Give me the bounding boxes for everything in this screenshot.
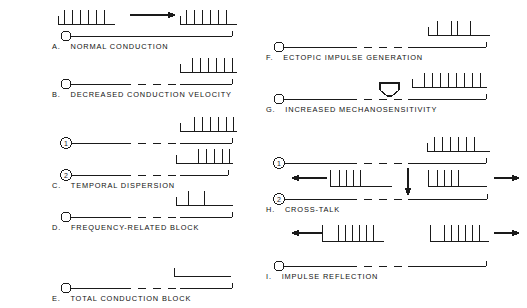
panel-b-label: DECREASED CONDUCTION VELOCITY (71, 90, 232, 99)
panel-d-frequency-related-block (61, 191, 233, 222)
panel-g-increased-mechanosensitivity (274, 73, 487, 104)
panel-f-letter: F. (266, 53, 273, 62)
panel-d-label: FREQUENCY-RELATED BLOCK (71, 223, 199, 232)
panel-f-label: ECTOPIC IMPULSE GENERATION (283, 53, 423, 62)
spike-train-distal-g (412, 73, 487, 87)
panel-d-letter: D. (52, 223, 61, 232)
spike-train-orthograde-h2 (428, 170, 487, 186)
panel-a-label: NORMAL CONDUCTION (71, 42, 169, 51)
conduction-direction-arrow-a (130, 12, 176, 19)
panel-h-caption: H. CROSS-TALK (266, 205, 340, 214)
panel-i-impulse-reflection (274, 225, 520, 271)
spike-train-distal-d (176, 191, 233, 205)
spike-train-distal-b (180, 58, 237, 72)
panel-h-letter: H. (266, 205, 275, 214)
axon-origin-circle-a (61, 31, 71, 41)
panel-c-letter: C. (52, 181, 61, 190)
panel-i-caption: I. IMPULSE REFLECTION (266, 272, 378, 281)
spike-train-retrograde-i (322, 225, 384, 241)
spike-train-proximal-a (58, 10, 115, 24)
panel-e-label: TOTAL CONDUCTION BLOCK (70, 294, 191, 303)
panel-b-decreased-conduction-velocity (61, 58, 237, 89)
axon-origin-circle-f (274, 42, 284, 52)
spike-train-distal-a (180, 10, 237, 24)
mechanical-stimulus-arrow-icon (380, 83, 399, 96)
panel-e-total-conduction-block (61, 268, 232, 293)
spike-train-distal-f (428, 21, 490, 35)
panel-a-letter: A. (52, 42, 61, 51)
orthograde-direction-arrow-h (494, 175, 520, 182)
spike-train-retrograde-h2 (330, 170, 392, 186)
panel-i-label: IMPULSE REFLECTION (282, 272, 379, 281)
axon-origin-circle-e (61, 283, 71, 293)
spike-train-distal-c1 (180, 117, 237, 131)
panel-a-normal-conduction (58, 10, 237, 41)
axon-origin-circle-i (274, 261, 284, 271)
panel-b-caption: B. DECREASED CONDUCTION VELOCITY (52, 90, 232, 99)
retrograde-direction-arrow-h (291, 175, 327, 182)
panel-f-ectopic-impulse-generation (274, 21, 490, 52)
panel-e-letter: E. (52, 294, 61, 303)
orthograde-direction-arrow-i (494, 230, 520, 237)
panel-c-temporal-dispersion: 1 2 (61, 117, 238, 181)
panel-f-caption: F. ECTOPIC IMPULSE GENERATION (266, 53, 423, 62)
nerve-conduction-figure: 1 2 (0, 0, 527, 308)
panel-g-caption: G. INCREASED MECHANOSENSITIVITY (266, 105, 437, 114)
panel-c-caption: C. TEMPORAL DISPERSION (52, 181, 175, 190)
spike-train-distal-e (174, 268, 231, 276)
axon-origin-circle-g (274, 94, 284, 104)
panel-e-caption: E. TOTAL CONDUCTION BLOCK (52, 294, 191, 303)
panel-g-letter: G. (266, 105, 276, 114)
panel-h-cross-talk: 1 2 (274, 137, 521, 205)
panel-c-label: TEMPORAL DISPERSION (71, 181, 175, 190)
spike-train-distal-h1 (427, 137, 490, 151)
panel-a-caption: A. NORMAL CONDUCTION (52, 42, 168, 51)
spike-train-distal-c2 (176, 149, 233, 163)
fiber-1-number-c: 1 (64, 140, 68, 147)
axon-origin-circle-d (61, 212, 71, 222)
retrograde-direction-arrow-i (291, 230, 322, 237)
panel-h-label: CROSS-TALK (285, 205, 340, 214)
ephaptic-coupling-arrow-h (405, 168, 412, 196)
panel-d-caption: D. FREQUENCY-RELATED BLOCK (52, 223, 199, 232)
fiber-2-number-h: 2 (277, 196, 281, 203)
panel-b-letter: B. (52, 90, 61, 99)
spike-train-orthograde-i (430, 225, 489, 241)
fiber-2-number-c: 2 (64, 172, 68, 179)
panel-g-label: INCREASED MECHANOSENSITIVITY (285, 105, 437, 114)
panel-i-letter: I. (266, 272, 272, 281)
axon-origin-circle-b (61, 79, 71, 89)
fiber-1-number-h: 1 (277, 160, 281, 167)
